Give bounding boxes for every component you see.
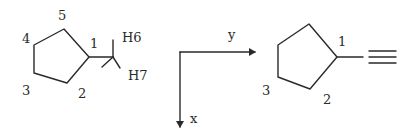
left-h7-bond [113, 57, 120, 68]
left-label-5: 5 [58, 8, 66, 23]
right-cyclopentane-ring [278, 24, 337, 89]
right-molecule: 1 3 2 [262, 24, 396, 107]
coordinate-axes: y x [180, 27, 255, 127]
left-label-4: 4 [22, 31, 30, 46]
left-label-h6: H6 [122, 30, 142, 45]
right-label-3: 3 [262, 83, 270, 98]
right-label-1: 1 [338, 34, 346, 49]
left-wedge-bond-a [102, 57, 113, 67]
y-axis-label: y [227, 27, 236, 42]
left-label-2: 2 [78, 86, 86, 101]
left-cyclopentane-ring [34, 29, 89, 83]
left-label-h7: H7 [128, 68, 148, 83]
right-label-2: 2 [323, 92, 331, 107]
left-molecule: 5 4 1 3 2 H6 H7 [22, 8, 148, 101]
left-label-3: 3 [22, 83, 30, 98]
left-label-1: 1 [90, 36, 98, 51]
diagram-canvas: 5 4 1 3 2 H6 H7 y x 1 3 2 [0, 0, 416, 137]
x-axis-label: x [190, 111, 198, 126]
